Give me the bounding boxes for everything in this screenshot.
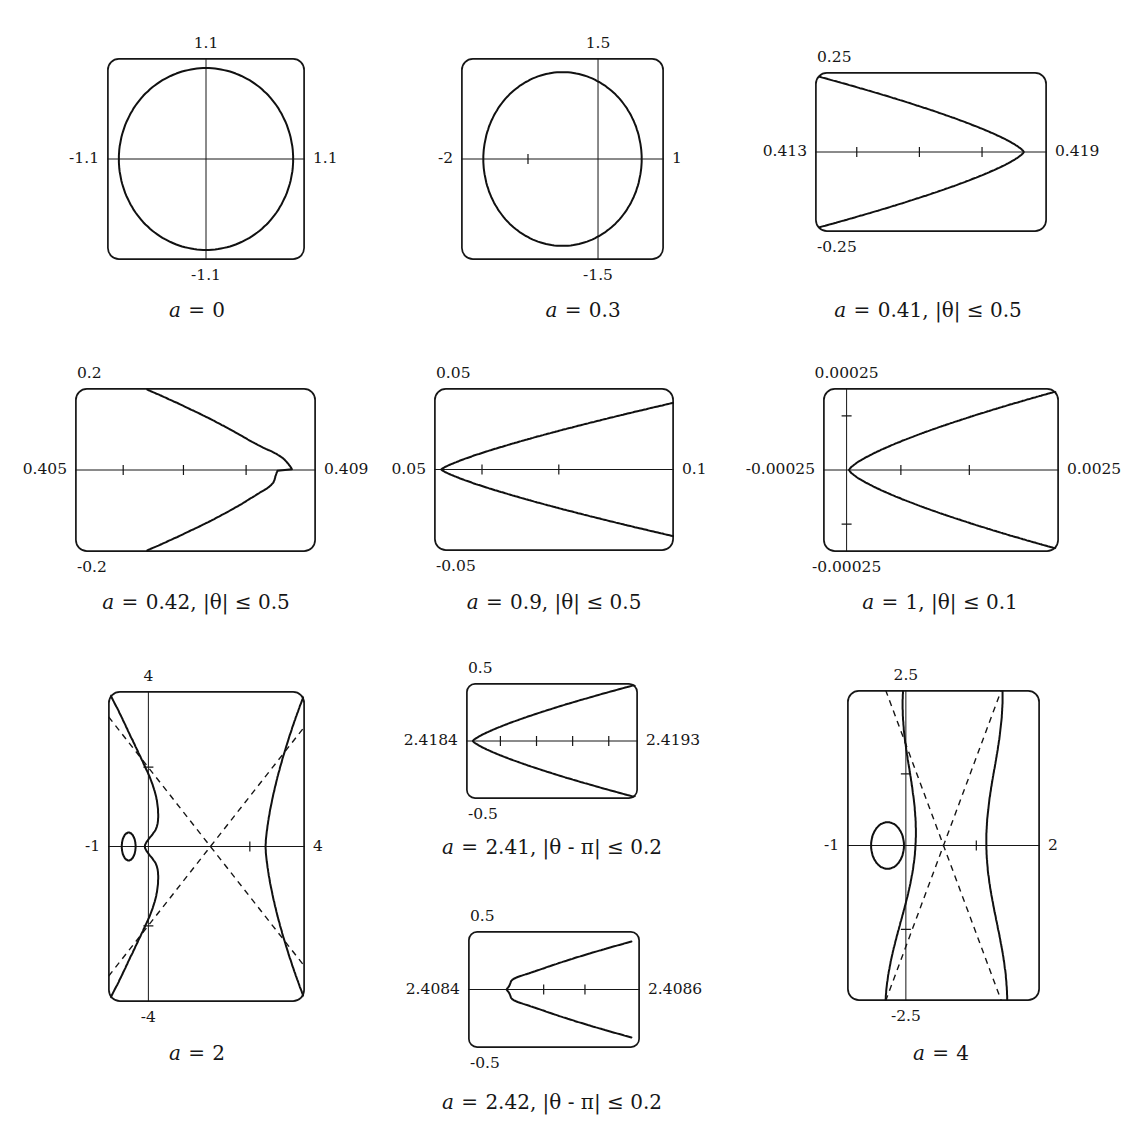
plot-inner: [88, 691, 332, 1002]
caption-equals: =: [181, 1041, 212, 1065]
plot-inner: [75, 389, 316, 551]
axis-label-top: 1.5: [586, 36, 611, 52]
plot-inner: [847, 690, 1040, 1001]
plot-canvas: [801, 644, 1086, 1047]
axis-label-right: 4: [313, 839, 323, 855]
axis-label-right: 1.1: [313, 151, 338, 167]
plot-inner: [815, 73, 1047, 231]
caption-equals: =: [454, 1090, 485, 1114]
axis-label-top: 0.2: [77, 366, 102, 382]
plot-content: [107, 58, 305, 260]
panel-caption-a4: a = 4: [913, 1043, 969, 1063]
axis-label-top: 2.5: [894, 668, 919, 684]
plot-content: [434, 403, 674, 537]
axis-label-bottom: -2.5: [891, 1009, 921, 1025]
caption-variable: a: [545, 298, 557, 322]
caption-equals: =: [846, 298, 877, 322]
caption-equals: =: [114, 590, 145, 614]
plot-inner: [434, 389, 674, 550]
caption-range: , |θ - π| ≤ 0.2: [530, 1090, 662, 1114]
axis-label-bottom: -0.25: [817, 240, 857, 256]
plot-panel-a041: 0.25-0.250.4130.419: [769, 26, 1093, 278]
axis-label-left: -1: [824, 838, 839, 854]
axis-label-right: 0.409: [324, 462, 368, 478]
axis-label-top: 0.00025: [815, 366, 879, 382]
axis-label-top: 0.05: [436, 366, 471, 382]
plot-content: [815, 77, 1047, 227]
caption-value: 0.42: [146, 590, 191, 614]
axis-label-right: 0.1: [682, 462, 707, 478]
plot-panel-a4: 2.5-2.5-12: [801, 644, 1086, 1047]
axis-label-top: 0.25: [817, 50, 852, 66]
caption-variable: a: [169, 1041, 181, 1065]
caption-variable: a: [442, 1090, 454, 1114]
panel-caption-a042: a = 0.42, |θ| ≤ 0.5: [102, 592, 289, 612]
panel-caption-a241: a = 2.41, |θ - π| ≤ 0.2: [442, 837, 662, 857]
plot-panel-a09: 0.05-0.050.050.1: [388, 342, 720, 597]
plot-panel-a242: 0.5-0.52.40842.4086: [422, 885, 686, 1094]
axis-label-left: 2.4184: [404, 733, 458, 749]
plot-panel-a03: 1.5-1.5-21: [415, 12, 710, 306]
plot-content: [461, 58, 664, 260]
plot-content: [468, 942, 640, 1038]
axis-label-bottom: -1.5: [583, 268, 613, 284]
axis-label-bottom: -0.2: [77, 560, 107, 576]
plot-inner: [466, 684, 638, 798]
caption-variable: a: [102, 590, 114, 614]
plot-panel-a241: 0.5-0.52.41842.4193: [420, 637, 684, 845]
caption-range: , |θ| ≤ 0.5: [190, 590, 290, 614]
caption-variable: a: [862, 590, 874, 614]
plot-content: [88, 691, 332, 1002]
caption-value: 4: [956, 1041, 969, 1065]
axis-label-right: 2: [1048, 838, 1058, 854]
plot-canvas: [62, 645, 351, 1048]
plot-panel-a0: 1.1-1.1-1.11.1: [61, 12, 351, 306]
caption-value: 2.41: [485, 835, 530, 859]
plot-canvas: [420, 637, 684, 845]
caption-value: 2: [212, 1041, 225, 1065]
plot-content: [847, 690, 1040, 1001]
panel-caption-a0: a = 0: [169, 300, 225, 320]
plot-inner: [107, 58, 305, 260]
panel-caption-a09: a = 0.9, |θ| ≤ 0.5: [467, 592, 642, 612]
axis-label-left: -1.1: [69, 151, 99, 167]
caption-range: , |θ| ≤ 0.1: [918, 590, 1018, 614]
panel-caption-a041: a = 0.41, |θ| ≤ 0.5: [834, 300, 1021, 320]
caption-value: 0: [212, 298, 225, 322]
caption-value: 0.9: [510, 590, 542, 614]
panel-caption-a03: a = 0.3: [545, 300, 620, 320]
axis-label-left: -1: [85, 839, 100, 855]
caption-range: , |θ| ≤ 0.5: [922, 298, 1022, 322]
caption-equals: =: [874, 590, 905, 614]
axis-label-bottom: -1.1: [191, 268, 221, 284]
caption-equals: =: [181, 298, 212, 322]
axis-label-top: 0.5: [470, 909, 495, 925]
panel-caption-a242: a = 2.42, |θ - π| ≤ 0.2: [442, 1092, 662, 1112]
caption-value: 0.3: [589, 298, 621, 322]
plot-inner: [823, 388, 1059, 552]
axis-label-left: 0.413: [763, 144, 807, 160]
axis-label-top: 4: [143, 669, 153, 685]
plot-canvas: [422, 885, 686, 1094]
plot-content: [823, 388, 1059, 552]
caption-variable: a: [913, 1041, 925, 1065]
axis-label-left: 2.4084: [406, 982, 460, 998]
axis-label-right: 0.419: [1055, 144, 1099, 160]
axis-label-left: -0.00025: [746, 462, 815, 478]
axis-label-top: 0.5: [468, 661, 493, 677]
panel-caption-a2: a = 2: [169, 1043, 225, 1063]
caption-variable: a: [467, 590, 479, 614]
plot-content: [466, 684, 638, 798]
caption-equals: =: [479, 590, 510, 614]
axis-label-bottom: -4: [141, 1010, 156, 1026]
panel-caption-a1: a = 1, |θ| ≤ 0.1: [862, 592, 1018, 612]
axis-label-left: 0.405: [23, 462, 67, 478]
caption-value: 2.42: [485, 1090, 530, 1114]
caption-equals: =: [925, 1041, 956, 1065]
plot-panel-a1: 0.00025-0.00025-0.000250.0025: [777, 342, 1105, 598]
axis-label-bottom: -0.5: [470, 1056, 500, 1072]
caption-variable: a: [834, 298, 846, 322]
caption-value: 1: [906, 590, 919, 614]
plot-canvas: [415, 12, 710, 306]
caption-range: , |θ - π| ≤ 0.2: [530, 835, 662, 859]
